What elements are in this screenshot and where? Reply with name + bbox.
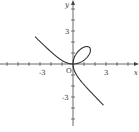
x-tick-label-neg3: -3 <box>39 69 46 77</box>
y-tick-label-pos3: 3 <box>65 28 69 36</box>
x-tick-label-pos3: 3 <box>104 69 108 77</box>
y-axis-arrow-icon <box>71 0 75 5</box>
x-axis-label: x <box>134 69 138 77</box>
origin-label: O <box>66 67 72 75</box>
y-axis-label: y <box>64 1 70 9</box>
y-tick-label-neg3: -3 <box>62 94 69 102</box>
x-axis-arrow-icon <box>134 62 139 66</box>
folium-chart: y x O 3 -3 3 -3 <box>0 0 139 132</box>
